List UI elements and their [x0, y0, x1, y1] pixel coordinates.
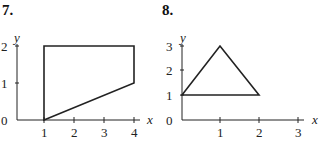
chart-7-xlabel-4: 4	[131, 125, 138, 140]
chart-8-region	[182, 46, 259, 95]
chart-7-ylabel-1: 1	[1, 76, 8, 91]
chart-7-xlabel-1: 1	[41, 125, 48, 140]
chart-8-xlabel-3: 3	[295, 125, 302, 140]
chart-8-ylabel-2: 2	[166, 63, 173, 78]
chart-7-ylabel: y	[12, 30, 20, 45]
chart-8-xlabel: x	[311, 112, 318, 127]
chart-7-xlabel-3: 3	[101, 125, 108, 140]
chart-8-ylabel-3: 3	[166, 39, 173, 54]
chart-8	[180, 44, 304, 123]
chart-7-xlabel-2: 2	[71, 125, 78, 140]
chart-8-xlabel-2: 2	[256, 125, 263, 140]
chart-8-ylabel-1: 1	[166, 88, 173, 103]
chart-7-ylabel-2: 2	[1, 39, 8, 54]
chart-7-region	[44, 46, 134, 120]
charts-canvas: y 2 1 0 1 2 3 4 x y 3 2 1 0 1 2 3 x	[0, 0, 323, 143]
chart-8-ylabel-0: 0	[166, 113, 173, 128]
chart-7	[15, 44, 140, 123]
chart-7-xlabel: x	[146, 112, 153, 127]
chart-8-ylabel: y	[178, 30, 186, 45]
chart-7-ylabel-0: 0	[1, 113, 8, 128]
chart-8-xlabel-1: 1	[217, 125, 224, 140]
